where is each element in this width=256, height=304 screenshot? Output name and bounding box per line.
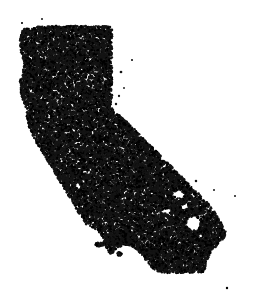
dot-density-map: California Dot Density Map [0, 0, 256, 304]
california-dot-density-canvas [0, 0, 256, 304]
